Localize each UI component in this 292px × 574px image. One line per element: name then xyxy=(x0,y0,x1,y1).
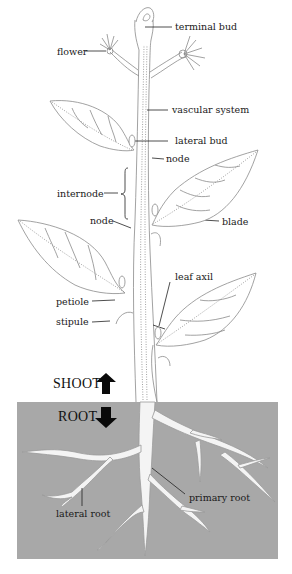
flowers xyxy=(100,34,205,78)
label-flower: flower xyxy=(57,46,87,57)
label-stipule: stipule xyxy=(56,316,89,327)
leaf-axil-leader xyxy=(159,282,170,326)
label-petiole: petiole xyxy=(56,296,89,307)
section-label-shoot: SHOOT xyxy=(53,376,101,392)
label-terminal-bud: terminal bud xyxy=(175,21,237,32)
node-lower-leader xyxy=(113,221,131,228)
petiole-leader xyxy=(92,300,115,301)
internode-brace xyxy=(121,168,128,219)
plant-illustration xyxy=(0,0,292,574)
label-node-lower: node xyxy=(90,215,114,226)
node-upper-leader xyxy=(152,158,164,159)
plant-diagram: terminal bud flower vascular system late… xyxy=(0,0,292,574)
label-lateral-bud: lateral bud xyxy=(175,135,228,146)
label-internode: internode xyxy=(57,188,104,199)
stipule-leader xyxy=(92,321,110,322)
label-leaf-axil: leaf axil xyxy=(175,271,213,282)
label-lateral-root: lateral root xyxy=(56,508,110,519)
section-label-root: ROOT xyxy=(58,409,97,425)
label-blade: blade xyxy=(222,216,249,227)
label-primary-root: primary root xyxy=(189,492,250,503)
label-node-upper: node xyxy=(166,153,190,164)
label-vascular-system: vascular system xyxy=(172,104,249,115)
